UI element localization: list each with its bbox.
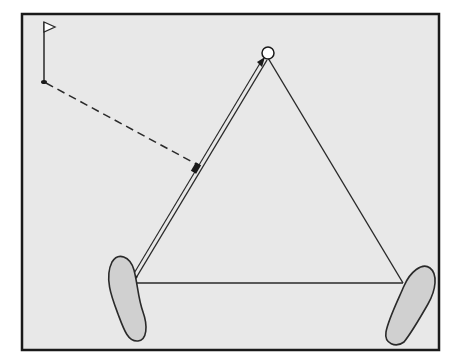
putting-diagram [0, 0, 464, 364]
ball [262, 47, 274, 59]
diagram-frame [22, 14, 439, 350]
